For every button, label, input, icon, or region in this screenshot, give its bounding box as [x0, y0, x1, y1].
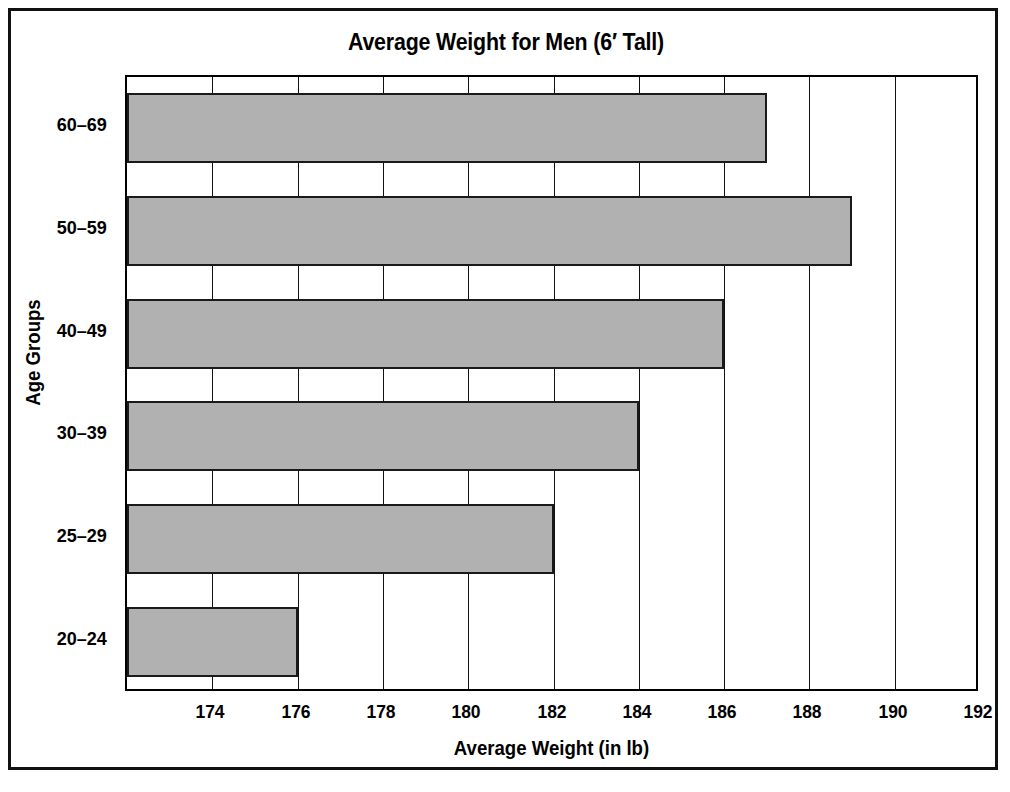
x-tick-label-180: 180: [452, 701, 481, 723]
bar-25–29: [127, 504, 554, 574]
x-axis-title: Average Weight (in lb): [155, 737, 948, 760]
x-tick-label-190: 190: [878, 701, 907, 723]
bar-60–69: [127, 93, 767, 163]
bar-series: [127, 77, 976, 689]
x-tick-label-178: 178: [366, 701, 395, 723]
y-axis-tick-labels: 60–6950–5940–4930–3925–2920–24: [11, 75, 119, 691]
y-tick-label-25–29: 25–29: [57, 525, 107, 547]
bar-20–24: [127, 607, 298, 677]
chart-figure: Average Weight for Men (6′ Tall) Age Gro…: [0, 0, 1010, 792]
chart-title: Average Weight for Men (6′ Tall): [46, 29, 967, 56]
x-tick-label-188: 188: [793, 701, 822, 723]
x-tick-label-184: 184: [622, 701, 651, 723]
y-tick-label-60–69: 60–69: [57, 114, 107, 136]
x-tick-label-192: 192: [963, 701, 992, 723]
x-axis-tick-labels: 174176178180182184186188190192: [125, 701, 978, 735]
y-tick-label-50–59: 50–59: [57, 217, 107, 239]
y-tick-label-30–39: 30–39: [57, 422, 107, 444]
chart-frame-border: Average Weight for Men (6′ Tall) Age Gro…: [8, 8, 998, 770]
y-tick-label-20–24: 20–24: [57, 628, 107, 650]
y-tick-label-40–49: 40–49: [57, 320, 107, 342]
bar-40–49: [127, 299, 724, 369]
x-tick-label-176: 176: [281, 701, 310, 723]
x-tick-label-174: 174: [196, 701, 225, 723]
x-tick-label-182: 182: [537, 701, 566, 723]
bar-50–59: [127, 196, 852, 266]
bar-30–39: [127, 401, 639, 471]
plot-area: [125, 75, 978, 691]
x-tick-label-186: 186: [708, 701, 737, 723]
